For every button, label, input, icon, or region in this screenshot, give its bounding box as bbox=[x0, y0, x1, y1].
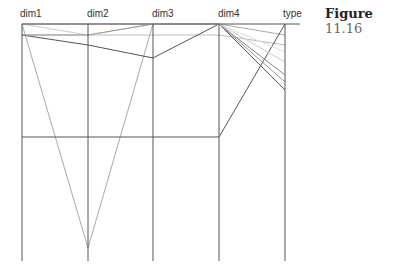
axis-label-type: type bbox=[283, 8, 302, 19]
figure-word: Figure bbox=[325, 6, 373, 21]
axis-label-dim3: dim3 bbox=[152, 8, 174, 19]
axis-label-dim2: dim2 bbox=[87, 8, 109, 19]
parallel-coordinates-plot bbox=[0, 0, 411, 268]
figure-number: 11.16 bbox=[325, 21, 362, 36]
axis-label-dim1: dim1 bbox=[20, 8, 42, 19]
figure-caption: Figure 11.16 bbox=[325, 6, 411, 36]
axis-label-dim4: dim4 bbox=[218, 8, 240, 19]
